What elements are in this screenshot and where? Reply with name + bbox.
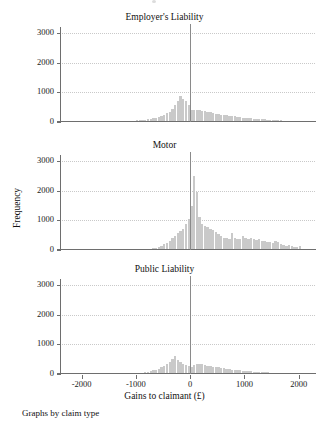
histogram-bars	[60, 155, 315, 250]
x-axis-tick-label: -1000	[106, 379, 166, 389]
y-axis-tick-label: 1000	[12, 87, 54, 96]
y-axis-tick-label: 2000	[12, 58, 54, 67]
panel-title-employers-liability: Employer's Liability	[0, 12, 329, 23]
y-axis-title: Frequency	[12, 188, 23, 228]
zero-reference-line	[190, 152, 191, 250]
histogram-figure: Employer's Liability 0100020003000 Motor…	[0, 0, 329, 430]
x-axis-tick-label: 1000	[214, 379, 274, 389]
y-axis-tick	[57, 250, 61, 251]
zero-reference-line	[190, 24, 191, 122]
panel-title-public-liability: Public Liability	[0, 264, 329, 275]
x-axis-tick-label: -2000	[52, 379, 112, 389]
y-axis-tick-label: 3000	[12, 280, 54, 289]
histogram-bars	[60, 27, 315, 122]
x-axis-title: Gains to claimant (£)	[0, 391, 329, 402]
panel-public-liability: Public Liability 0100020003000	[0, 264, 329, 376]
y-axis-tick-label: 1000	[12, 339, 54, 348]
panel-title-motor: Motor	[0, 140, 329, 151]
zero-reference-line	[190, 276, 191, 374]
y-axis-line	[60, 27, 61, 122]
panel-employers-liability: Employer's Liability 0100020003000	[0, 12, 329, 124]
y-axis-tick-label: 0	[12, 245, 54, 254]
y-axis-tick-label: 0	[12, 117, 54, 126]
x-axis-tick-label: 2000	[269, 379, 329, 389]
y-axis-tick-label: 3000	[12, 156, 54, 165]
x-axis-tick-label: 0	[160, 379, 220, 389]
plot-area-employers-liability: 0100020003000	[60, 27, 315, 122]
x-axis-line	[57, 121, 316, 122]
figure-footnote: Graphs by claim type	[22, 408, 99, 419]
histogram-bars	[60, 279, 315, 374]
plot-area-motor: 0100020003000	[60, 155, 315, 250]
clipped-title-artifact	[152, 0, 156, 3]
panel-motor: Motor 0100020003000	[0, 140, 329, 252]
y-axis-line	[60, 155, 61, 250]
y-axis-tick-label: 3000	[12, 28, 54, 37]
y-axis-line	[60, 279, 61, 374]
y-axis-tick	[57, 122, 61, 123]
x-axis-line	[57, 249, 316, 250]
plot-area-public-liability: 0100020003000	[60, 279, 315, 374]
x-axis-line	[57, 373, 316, 374]
y-axis-tick-label: 2000	[12, 310, 54, 319]
